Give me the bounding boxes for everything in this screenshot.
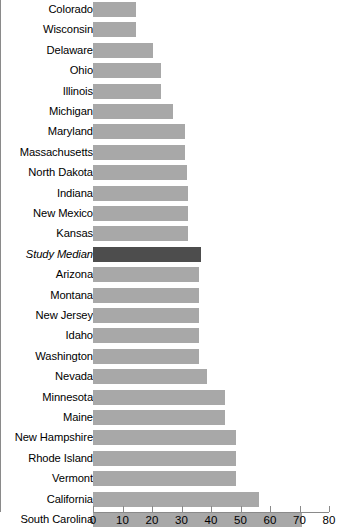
bar-row: Idaho [0, 328, 333, 348]
bar [93, 288, 199, 303]
bar-row: Colorado [0, 2, 333, 22]
bar-row: Delaware [0, 43, 333, 63]
bar-row: Massachusetts [0, 145, 333, 165]
bar-row: Montana [0, 288, 333, 308]
bar [93, 430, 236, 445]
bar-category-label: Illinois [0, 84, 93, 99]
bar-category-label: Vermont [0, 471, 93, 486]
bar-category-label: Michigan [0, 104, 93, 119]
bar-category-label: Ohio [0, 63, 93, 78]
x-axis-tick [300, 506, 301, 512]
bar-category-label: Study Median [0, 247, 93, 262]
bar-row: New Jersey [0, 308, 333, 328]
bar [93, 410, 225, 425]
x-axis-tick-label: 70 [285, 514, 315, 526]
x-axis-tick-label: 20 [137, 514, 167, 526]
bar-row: Michigan [0, 104, 333, 124]
bar-row: Study Median [0, 247, 333, 267]
x-axis-tick [152, 506, 153, 512]
x-axis-tick-label: 10 [108, 514, 138, 526]
x-axis-tick-label: 30 [167, 514, 197, 526]
bar [93, 471, 236, 486]
bar-row: New Hampshire [0, 430, 333, 450]
bar-row: North Dakota [0, 165, 333, 185]
x-axis-tick [270, 506, 271, 512]
bar [93, 451, 236, 466]
bar-row: Rhode Island [0, 451, 333, 471]
bar-category-label: North Dakota [0, 165, 93, 180]
bar-category-label: Colorado [0, 2, 93, 17]
x-axis-tick-label: 50 [226, 514, 256, 526]
bar-row: Wisconsin [0, 22, 333, 42]
x-axis-tick [329, 506, 330, 512]
bar [93, 267, 199, 282]
bar-category-label: Idaho [0, 328, 93, 343]
x-axis-tick [123, 506, 124, 512]
x-axis-tick-label: 60 [255, 514, 285, 526]
bar [93, 492, 259, 507]
bar-category-label: Nevada [0, 369, 93, 384]
bar-category-label: New Hampshire [0, 430, 93, 445]
bar-row: Maine [0, 410, 333, 430]
bar [93, 247, 201, 262]
bar [93, 22, 136, 37]
bar [93, 308, 199, 323]
bar [93, 349, 199, 364]
bar [93, 43, 153, 58]
bar-row: California [0, 492, 333, 512]
bar-category-label: Arizona [0, 267, 93, 282]
bar-category-label: Maine [0, 410, 93, 425]
x-axis-tick [182, 506, 183, 512]
bar [93, 390, 225, 405]
bar-row: Maryland [0, 124, 333, 144]
bar-row: Minnesota [0, 390, 333, 410]
bar [93, 165, 187, 180]
bar-category-label: New Mexico [0, 206, 93, 221]
bar-row: Illinois [0, 84, 333, 104]
bar-row: Indiana [0, 186, 333, 206]
bar-row: Kansas [0, 226, 333, 246]
x-axis-tick [93, 506, 94, 512]
bar [93, 145, 185, 160]
bar [93, 369, 207, 384]
bar [93, 2, 136, 17]
bar-category-label: Indiana [0, 186, 93, 201]
x-axis-tick-label: 80 [314, 514, 340, 526]
bar-row: New Mexico [0, 206, 333, 226]
bar-category-label: California [0, 492, 93, 507]
bar [93, 104, 173, 119]
bar [93, 328, 199, 343]
bar-row: Washington [0, 349, 333, 369]
bar-category-label: Washington [0, 349, 93, 364]
x-axis-tick-label: 40 [196, 514, 226, 526]
bar-category-label: Maryland [0, 124, 93, 139]
bar-category-label: New Jersey [0, 308, 93, 323]
bar [93, 63, 161, 78]
x-axis-tick [211, 506, 212, 512]
x-axis-line [93, 512, 329, 513]
bar-category-label: Massachusetts [0, 145, 93, 160]
bar-category-label: Delaware [0, 43, 93, 58]
bar [93, 186, 188, 201]
bar [93, 124, 185, 139]
bar-category-label: Rhode Island [0, 451, 93, 466]
bar-row: Vermont [0, 471, 333, 491]
x-axis-tick-label: 0 [78, 514, 108, 526]
bar-row: Ohio [0, 63, 333, 83]
bar [93, 226, 188, 241]
bar-row: Nevada [0, 369, 333, 389]
bar-row: Arizona [0, 267, 333, 287]
x-axis-tick [241, 506, 242, 512]
bar-category-label: Minnesota [0, 390, 93, 405]
bar-category-label: Wisconsin [0, 22, 93, 37]
bar-category-label: Montana [0, 288, 93, 303]
bar [93, 206, 188, 221]
bar [93, 84, 161, 99]
bar-category-label: Kansas [0, 226, 93, 241]
